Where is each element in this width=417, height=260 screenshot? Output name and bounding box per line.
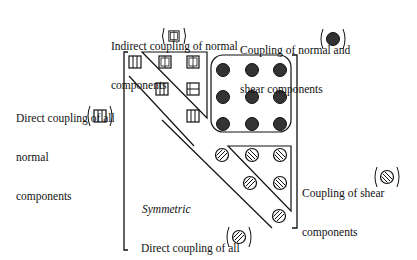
label-shear-different: Coupling of shear components in differen…	[302, 161, 401, 260]
label-indirect-normal: Indirect coupling of normal components	[111, 14, 238, 105]
label-direct-normal: Direct coupling of all normal components	[16, 86, 115, 216]
label-direct-shear: Direct coupling of all associated shear …	[141, 216, 240, 260]
shear-different-region	[228, 146, 291, 211]
label-normal-shear: Coupling of normal and shear components	[240, 18, 350, 109]
